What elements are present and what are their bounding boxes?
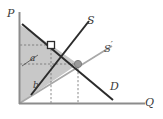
curve-label-demand: D — [110, 81, 119, 92]
supply-demand-figure: P Q S S′ D a b — [0, 0, 163, 119]
axis-label-price: P — [7, 8, 14, 19]
equilibrium-original-marker — [48, 42, 55, 49]
curve-label-supply-shifted: S′ — [104, 41, 113, 54]
curve-label-supply: S — [87, 15, 95, 26]
axis-label-quantity: Q — [145, 97, 154, 108]
curve-label-supply-shifted-prime: ′ — [111, 40, 113, 50]
plot-canvas — [0, 0, 163, 119]
equilibrium-new-marker — [74, 60, 81, 67]
region-label-b: b — [33, 81, 39, 90]
region-label-a: a — [30, 54, 35, 63]
curve-label-supply-shifted-text: S — [104, 43, 111, 54]
